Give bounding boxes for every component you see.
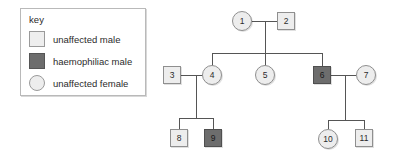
pedigree-node-5-label: 5 (263, 70, 268, 80)
pedigree-node-2-label: 2 (284, 16, 289, 26)
pedigree-node-6-label: 6 (320, 70, 325, 80)
pedigree-node-7-label: 7 (364, 70, 369, 80)
pedigree-node-9[interactable]: 9 (204, 129, 222, 147)
pedigree-node-1-label: 1 (240, 16, 245, 26)
pedigree-node-3[interactable]: 3 (163, 66, 181, 84)
pedigree-node-8[interactable]: 8 (170, 129, 188, 147)
mating-line-6-7 (331, 75, 356, 76)
pedigree-node-5[interactable]: 5 (255, 65, 275, 85)
sibling-drop-8 (179, 118, 180, 129)
sibship-bar-10-11 (328, 120, 364, 121)
pedigree-node-11-label: 11 (360, 133, 369, 143)
pedigree-node-7[interactable]: 7 (356, 65, 376, 85)
sibling-drop-10 (328, 120, 329, 129)
pedigree-node-11[interactable]: 11 (355, 129, 373, 147)
sibling-drop-11 (364, 120, 365, 129)
pedigree-tree: 1 2 3 4 5 6 7 8 9 10 11 (0, 0, 399, 165)
descent-line-couple-1-2 (265, 21, 266, 53)
descent-line-couple-6-7 (345, 75, 346, 120)
pedigree-node-4-label: 4 (210, 70, 215, 80)
pedigree-node-4[interactable]: 4 (202, 65, 222, 85)
pedigree-node-6[interactable]: 6 (313, 66, 331, 84)
sibship-bar-8-9 (179, 118, 213, 119)
pedigree-node-1[interactable]: 1 (232, 11, 252, 31)
pedigree-node-8-label: 8 (177, 133, 182, 143)
pedigree-node-10[interactable]: 10 (318, 129, 338, 149)
sibling-drop-9 (213, 118, 214, 129)
pedigree-node-9-label: 9 (211, 133, 216, 143)
pedigree-node-2[interactable]: 2 (277, 12, 295, 30)
pedigree-diagram: key unaffected male haemophiliac male un… (0, 0, 399, 165)
pedigree-node-10-label: 10 (323, 134, 332, 144)
pedigree-node-3-label: 3 (170, 70, 175, 80)
sibling-drop-6 (322, 53, 323, 66)
descent-line-couple-3-4 (196, 75, 197, 118)
mating-line-3-4 (181, 75, 203, 76)
sibship-bar-generation-2 (212, 53, 322, 54)
